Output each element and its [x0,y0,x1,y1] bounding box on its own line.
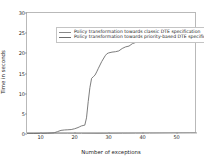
y-tick-label: 25 [19,31,25,36]
legend-swatch-priority-dte-icon [59,37,71,38]
legend-item-priority-dte: Policy transformation towards priority-b… [59,35,204,41]
x-tick-label: 30 [105,135,111,140]
series-line-priority-dte [27,31,197,133]
line-chart-figure: Policy transformation towards classic DT… [0,0,204,163]
y-tick-mark [25,13,27,14]
y-tick-label: 30 [19,11,25,16]
x-tick-label: 20 [71,135,77,140]
x-tick-label: 10 [37,135,43,140]
plot-area: Policy transformation towards classic DT… [26,12,196,133]
y-tick-label: 10 [19,91,25,96]
y-tick-label: 5 [22,111,25,116]
legend-label-priority-dte: Policy transformation towards priority-b… [74,35,204,40]
x-tick-label: 50 [173,135,179,140]
legend-swatch-classic-dte-icon [59,32,71,33]
x-axis-label: Number of exceptions [81,150,140,155]
y-tick-mark [25,134,27,135]
y-tick-label: 15 [19,71,25,76]
y-tick-mark [25,93,27,94]
y-tick-mark [25,73,27,74]
y-tick-label: 0 [22,132,25,137]
x-tick-label: 40 [139,135,145,140]
y-tick-label: 20 [19,51,25,56]
y-tick-mark [25,53,27,54]
chart-legend: Policy transformation towards classic DT… [56,27,204,43]
y-axis-label: Time in seconds [1,50,6,94]
y-tick-mark [25,33,27,34]
y-tick-mark [25,113,27,114]
